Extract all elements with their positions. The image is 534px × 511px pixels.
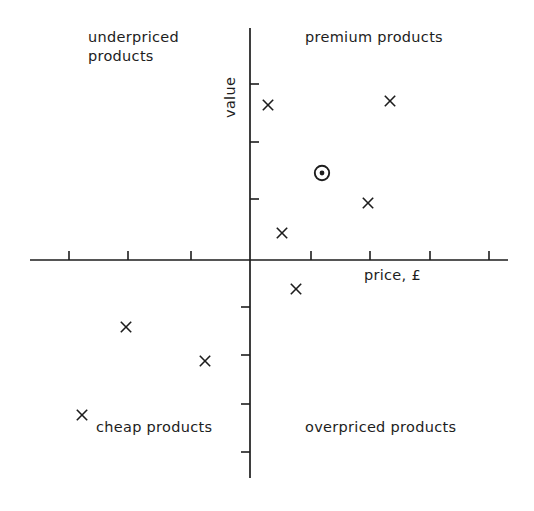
data-point-x-marker — [277, 228, 287, 238]
quadrant-label-underpriced: underpriced products — [88, 28, 179, 65]
y-axis-label: value — [222, 77, 238, 118]
data-markers-group — [77, 96, 395, 420]
data-point-x-marker — [200, 356, 210, 366]
scatter-plot-figure: underpriced products premium products ch… — [0, 0, 534, 511]
quadrant-label-overpriced: overpriced products — [305, 418, 456, 437]
axis-ticks-group — [69, 84, 489, 452]
data-point-x-marker — [385, 96, 395, 106]
quadrant-label-premium: premium products — [305, 28, 443, 47]
x-axis-label: price, £ — [364, 267, 421, 283]
data-point-x-marker — [263, 100, 273, 110]
data-point-x-marker — [291, 284, 301, 294]
data-point-x-marker — [77, 410, 87, 420]
marker-dot — [320, 171, 325, 176]
data-point-x-marker — [121, 322, 131, 332]
data-point-x-marker — [363, 198, 373, 208]
axes-group — [30, 28, 508, 478]
quadrant-label-cheap: cheap products — [96, 418, 212, 437]
own-product-marker — [315, 166, 329, 180]
